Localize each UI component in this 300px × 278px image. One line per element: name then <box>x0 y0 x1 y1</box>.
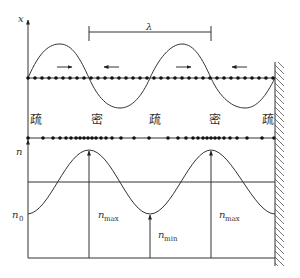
displacement-wave <box>28 44 275 108</box>
region-label-rarefaction: 疏 <box>149 112 161 127</box>
wavelength-label: λ <box>145 21 152 32</box>
n0-subscript: 0 <box>19 215 23 223</box>
region-label-compression: 密 <box>91 112 103 127</box>
wave-density-diagram: x λ 疏 密 疏 密 疏 <box>0 0 300 278</box>
nmax-sub-2: max <box>225 215 240 223</box>
region-label-rarefaction: 疏 <box>262 112 274 127</box>
n0-label: n <box>12 209 18 220</box>
nmax-sub-1: max <box>104 215 119 223</box>
value-arrows <box>89 151 211 258</box>
top-axis-label: x <box>18 13 24 24</box>
region-label-compression: 密 <box>209 112 221 127</box>
nmin-sub: min <box>164 235 178 243</box>
region-label-rarefaction: 疏 <box>30 112 42 127</box>
bottom-axis-label: n <box>16 146 22 157</box>
fixed-wall <box>275 62 284 266</box>
